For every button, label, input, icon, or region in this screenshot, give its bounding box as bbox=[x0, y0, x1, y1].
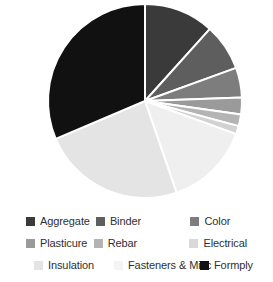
legend-swatch-formply bbox=[200, 261, 209, 270]
legend-label-insulation: Insulation bbox=[48, 259, 94, 272]
legend-item-fasteners-misc[interactable]: Fasteners & Misc bbox=[92, 254, 192, 276]
legend-item-binder[interactable]: Binder bbox=[90, 210, 183, 232]
pie-slices-group bbox=[48, 4, 242, 198]
legend-label-aggregate: Aggregate bbox=[40, 215, 90, 228]
pie-chart-page: Aggregate Binder Color Plasticure Rebar bbox=[0, 0, 273, 282]
legend-swatch-aggregate bbox=[26, 217, 35, 226]
legend-item-insulation[interactable]: Insulation bbox=[8, 254, 92, 276]
legend-swatch-insulation bbox=[34, 261, 43, 270]
legend-row: Plasticure Rebar Electrical bbox=[8, 232, 265, 254]
legend-label-color: Color bbox=[204, 215, 230, 228]
legend-label-binder: Binder bbox=[110, 215, 141, 228]
legend-swatch-color bbox=[190, 217, 199, 226]
legend-swatch-binder bbox=[96, 217, 105, 226]
legend-label-plasticure: Plasticure bbox=[40, 237, 87, 250]
chart-legend: Aggregate Binder Color Plasticure Rebar bbox=[0, 206, 273, 282]
legend-swatch-rebar bbox=[94, 239, 103, 248]
legend-item-rebar[interactable]: Rebar bbox=[88, 232, 182, 254]
legend-label-rebar: Rebar bbox=[108, 237, 137, 250]
legend-row: Aggregate Binder Color bbox=[8, 210, 265, 232]
legend-swatch-fasteners-misc bbox=[114, 261, 123, 270]
legend-swatch-plasticure bbox=[26, 239, 35, 248]
legend-swatch-electrical bbox=[189, 239, 198, 248]
legend-label-formply: Formply bbox=[214, 259, 253, 272]
pie-chart-svg bbox=[0, 0, 273, 205]
pie-chart-area bbox=[0, 0, 273, 205]
legend-row: Insulation Fasteners & Misc Formply bbox=[8, 254, 265, 276]
legend-item-formply[interactable]: Formply bbox=[192, 254, 265, 276]
legend-item-aggregate[interactable]: Aggregate bbox=[8, 210, 90, 232]
legend-item-plasticure[interactable]: Plasticure bbox=[8, 232, 88, 254]
legend-label-electrical: Electrical bbox=[203, 237, 247, 250]
legend-item-electrical[interactable]: Electrical bbox=[181, 232, 265, 254]
legend-item-color[interactable]: Color bbox=[182, 210, 265, 232]
